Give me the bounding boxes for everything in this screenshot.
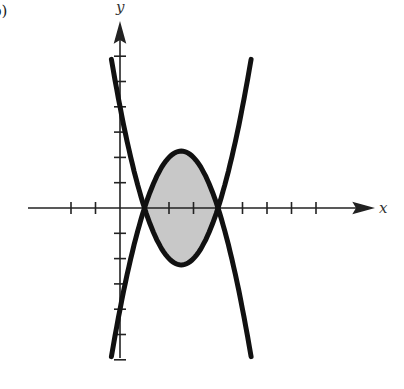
y-axis-arrow-icon <box>115 24 125 42</box>
subfigure-label: b) <box>0 2 7 20</box>
y-axis-label: y <box>116 0 124 16</box>
x-axis-label: x <box>379 199 387 217</box>
x-axis-arrow-icon <box>354 203 372 213</box>
graph <box>0 0 404 389</box>
